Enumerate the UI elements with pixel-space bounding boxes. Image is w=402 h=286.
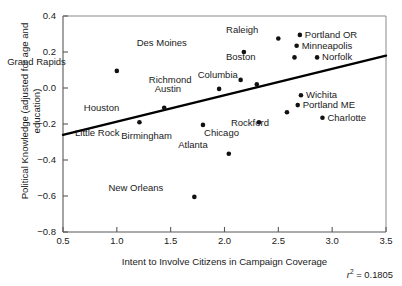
data-point-label: Minneapolis (302, 40, 353, 51)
data-point-label: Raleigh (226, 24, 258, 35)
data-point (115, 69, 120, 74)
trend-line (63, 56, 386, 135)
r-exponent: 2 (350, 268, 354, 275)
data-point-label: Charlotte (327, 112, 366, 123)
y-tick-label: 0.0 (43, 82, 56, 93)
x-tick-label: 2.0 (218, 235, 231, 246)
data-point (292, 55, 297, 60)
y-tick-label: −0.8 (37, 226, 56, 237)
regression-line (63, 56, 386, 135)
data-point (295, 103, 300, 108)
r-squared-value: = 0.1805 (356, 269, 393, 280)
data-point-label: Houston (84, 102, 119, 113)
data-point-label: Portland OR (305, 29, 357, 40)
data-point (298, 33, 303, 38)
data-point-labels: Grand RapidsHoustonLittle RockBirmingham… (7, 24, 366, 193)
data-point (137, 120, 142, 125)
data-point (227, 151, 232, 156)
y-axis-title: Political Knowledge (adjusted for age an… (19, 11, 43, 211)
data-point (254, 82, 259, 87)
data-point-label: Chicago (204, 127, 239, 138)
data-point (192, 195, 197, 200)
data-point-label: Boston (226, 51, 256, 62)
data-point-label: Birmingham (121, 130, 172, 141)
data-point-label: Des Moines (137, 37, 187, 48)
data-point (285, 110, 290, 115)
data-point-label: Atlanta (178, 139, 208, 150)
x-tick-label: 1.0 (110, 235, 123, 246)
data-point (162, 106, 167, 111)
x-axis-title: Intent to Involve Citizens in Campaign C… (63, 256, 386, 267)
data-point-label: Portland ME (303, 99, 355, 110)
y-tick-label: 0.4 (43, 10, 56, 21)
data-points (115, 33, 325, 200)
data-point-label: Richmond (149, 74, 192, 85)
data-point (320, 115, 325, 120)
x-tick-label: 3.5 (379, 235, 392, 246)
x-tick-label: 3.0 (326, 235, 339, 246)
data-point (294, 43, 299, 48)
data-point-label: Rockford (231, 117, 269, 128)
data-point (217, 87, 222, 92)
data-point-label: Norfolk (322, 51, 352, 62)
data-point-label: New Orleans (108, 182, 163, 193)
x-tick-label: 2.5 (272, 235, 285, 246)
data-point (238, 78, 243, 83)
data-point (276, 36, 281, 41)
r-squared-annotation: r2 = 0.1805 (347, 268, 393, 280)
data-point (299, 93, 304, 98)
scatter-plot-figure: 0.40.20.0−0.2−0.4−0.6−0.80.51.01.52.02.5… (0, 0, 402, 286)
x-tick-label: 0.5 (56, 235, 69, 246)
x-tick-label: 1.5 (164, 235, 177, 246)
data-point (315, 55, 320, 60)
data-point-label: Little Rock (75, 127, 120, 138)
plot-canvas: 0.40.20.0−0.2−0.4−0.6−0.80.51.01.52.02.5… (0, 0, 402, 286)
data-point-label: Columbia (198, 69, 239, 80)
